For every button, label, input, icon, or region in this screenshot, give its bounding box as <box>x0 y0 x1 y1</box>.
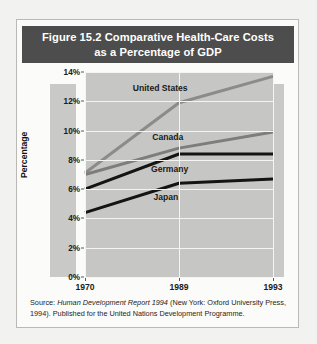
gridline-vertical <box>179 72 180 277</box>
y-axis-tick-mark <box>81 72 84 73</box>
y-axis-tick-label: 0% <box>46 273 80 282</box>
y-axis-tick-label: 4% <box>46 214 80 223</box>
series-label-united-states: United States <box>133 83 188 93</box>
source-prefix: Source: <box>30 298 57 307</box>
y-axis-tick-label: 8% <box>46 155 80 164</box>
y-axis-tick-label: 12% <box>46 97 80 106</box>
figure-title-bar: Figure 15.2 Comparative Health-Care Cost… <box>22 26 294 63</box>
x-axis-tick-mark <box>85 278 86 281</box>
y-axis-tick-label: 2% <box>46 243 80 252</box>
x-axis-tick-label: 1970 <box>75 282 94 292</box>
x-axis-tick-mark <box>273 278 274 281</box>
x-axis-tick-label: 1989 <box>169 282 188 292</box>
y-axis-tick-label: 14% <box>46 68 80 77</box>
y-axis-tick-mark <box>81 247 84 248</box>
series-label-canada: Canada <box>152 132 183 142</box>
figure-title: Figure 15.2 Comparative Health-Care Cost… <box>36 30 280 60</box>
series-label-germany: Germany <box>151 164 188 174</box>
y-axis-tick-mark <box>81 159 84 160</box>
figure-title-line1: Figure 15.2 Comparative Health-Care Cost… <box>42 31 274 43</box>
source-note: Source: Human Development Report 1994 (N… <box>30 298 288 320</box>
y-axis-tick-label: 10% <box>46 126 80 135</box>
series-label-japan: Japan <box>153 192 178 202</box>
source-title: Human Development Report 1994 <box>57 298 168 307</box>
y-axis-tick-mark <box>81 130 84 131</box>
y-axis-tick-mark <box>81 277 84 278</box>
y-axis-tick-mark <box>81 189 84 190</box>
x-axis-tick-mark <box>179 278 180 281</box>
gridline-vertical <box>273 72 274 277</box>
y-axis-title: Percentage <box>19 132 29 178</box>
y-axis-tick-mark <box>81 218 84 219</box>
figure-title-line2: as a Percentage of GDP <box>42 45 274 60</box>
y-axis-tick-mark <box>81 101 84 102</box>
x-axis-tick-label: 1993 <box>263 282 282 292</box>
y-axis-tick-label: 6% <box>46 185 80 194</box>
gridline-vertical <box>85 72 86 277</box>
chart: Percentage 0%2%4%6%8%10%12%14% 197019891… <box>22 66 294 288</box>
figure-page: Figure 15.2 Comparative Health-Care Cost… <box>0 0 317 344</box>
plot-area <box>85 72 273 277</box>
